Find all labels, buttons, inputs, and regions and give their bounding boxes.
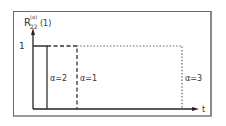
- y-axis-label-arg: (1): [40, 19, 51, 28]
- x-axis-arrow-icon: [192, 107, 199, 111]
- label-alpha-1: α=1: [80, 74, 97, 83]
- y-axis-label-sup: (α): [30, 14, 37, 20]
- y-axis-label-sub: 22: [30, 23, 38, 30]
- series-alpha-2: [33, 46, 47, 109]
- y-tick-label-1: 1: [19, 41, 25, 51]
- label-alpha-2: α=2: [50, 74, 67, 83]
- x-axis-label: t: [202, 105, 205, 114]
- label-alpha-3: α=3: [185, 74, 202, 83]
- step-function-chart: R 22 (α) (1) 1 t α=2 α=1 α=3: [0, 0, 226, 126]
